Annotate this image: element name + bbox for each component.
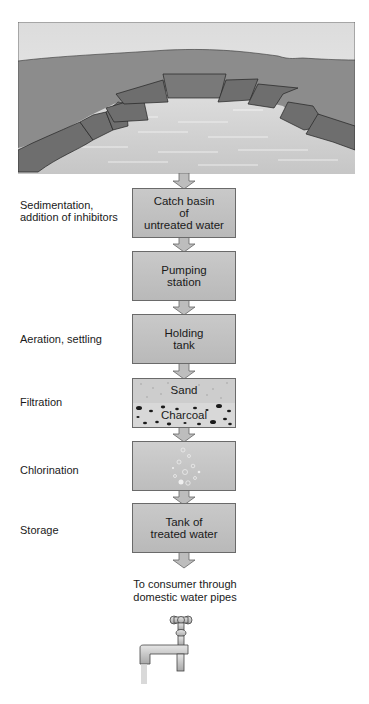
reservoir-landscape-illustration	[18, 22, 355, 174]
holding-tank-box: Holding tank	[132, 314, 236, 364]
process-label-storage: Storage	[20, 524, 59, 536]
down-arrow-icon	[172, 552, 196, 569]
pumping-station-box: Pumping station	[132, 251, 236, 301]
treated-water-tank-box: Tank of treated water	[132, 503, 236, 553]
process-label-filtration: Filtration	[20, 396, 62, 408]
water-stream	[141, 664, 147, 684]
destination-label: To consumer through domestic water pipes	[100, 578, 270, 603]
faucet-icon	[130, 612, 210, 702]
chlorine-bubbles-illustration	[133, 442, 235, 490]
process-label-chlorination: Chlorination	[20, 464, 79, 476]
catch-basin-box: Catch basin of untreated water	[132, 188, 236, 238]
charcoal-layer-label: Charcoal	[133, 409, 235, 421]
sand-layer-label: Sand	[133, 384, 235, 396]
chlorination-box	[132, 441, 236, 491]
process-label-sedimentation: Sedimentation, addition of inhibitors	[20, 199, 118, 223]
process-label-aeration: Aeration, settling	[20, 333, 102, 345]
filter-box: Sand Charcoal	[132, 378, 236, 428]
